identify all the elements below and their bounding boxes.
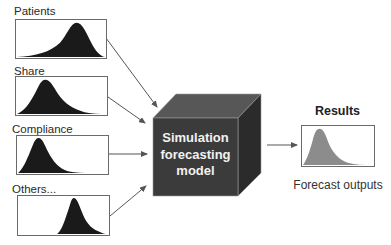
input-label-others: Others... [12, 184, 56, 196]
arrow-others-to-model [110, 186, 146, 216]
distribution-share [15, 76, 108, 116]
model-label-line-2: forecasting [153, 147, 238, 164]
distribution-others [17, 195, 110, 236]
model-label-line-3: model [153, 163, 238, 180]
right-skew-curve-icon [17, 136, 108, 174]
input-label-compliance: Compliance [12, 124, 73, 136]
results-caption: Forecast outputs [283, 178, 391, 192]
right-skew-curve-icon [18, 196, 109, 235]
model-label: Simulation forecasting model [153, 130, 238, 180]
arrow-patients-to-model [106, 38, 157, 107]
model-label-line-1: Simulation [153, 130, 238, 147]
distribution-patients [15, 19, 107, 59]
input-label-patients: Patients [14, 6, 56, 18]
results-title: Results [301, 104, 374, 118]
left-skew-curve-icon [16, 20, 106, 58]
distribution-compliance [16, 135, 109, 175]
forecast-curve-icon [302, 126, 374, 166]
right-skew-curve-icon [16, 77, 107, 115]
arrow-share-to-model [108, 97, 145, 123]
distribution-results [301, 125, 375, 167]
